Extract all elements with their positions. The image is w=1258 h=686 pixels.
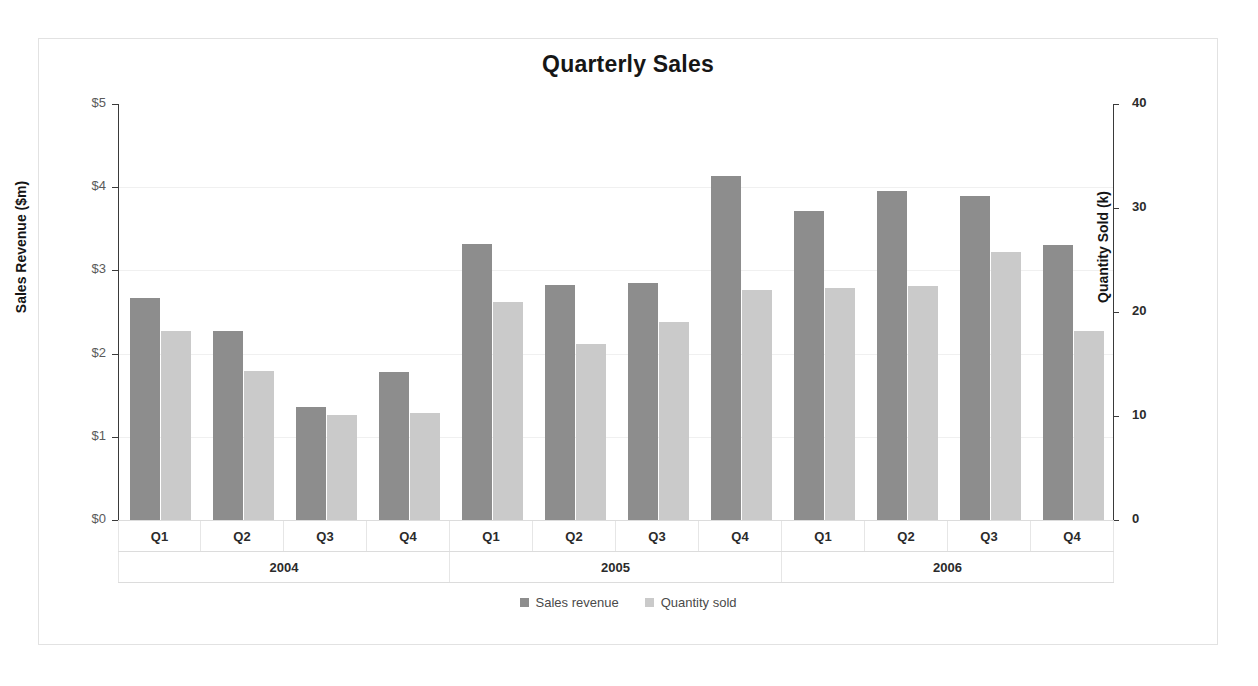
bar-quantity-sold: [576, 344, 606, 520]
quarter-label-q4-11: Q4: [1031, 521, 1114, 551]
category-axis: Q1Q2Q3Q4Q1Q2Q3Q4Q1Q2Q3Q4 200420052006: [118, 520, 1114, 584]
left-axis-title: Sales Revenue ($m): [13, 181, 29, 313]
bar-sales-revenue: [628, 283, 658, 520]
left-axis-tick-label: $0: [92, 511, 106, 526]
plot-area: $0$1$2$3$4$5 010203040: [118, 104, 1114, 520]
bar-sales-revenue: [462, 244, 492, 520]
right-axis-tick: [1113, 416, 1119, 417]
bar-sales-revenue: [379, 372, 409, 520]
quarter-label-q2-5: Q2: [533, 521, 616, 551]
legend-label: Sales revenue: [536, 595, 619, 610]
year-label-2004: 2004: [118, 552, 450, 582]
bar-sales-revenue: [545, 285, 575, 520]
chart-legend: Sales revenueQuantity sold: [39, 595, 1217, 610]
left-axis-tick-label: $1: [92, 428, 106, 443]
right-axis-tick-label: 40: [1132, 95, 1146, 110]
left-axis-tick-label: $2: [92, 345, 106, 360]
bar-quantity-sold: [991, 252, 1021, 520]
bar-sales-revenue: [130, 298, 160, 520]
quarter-label-q2-1: Q2: [201, 521, 284, 551]
left-axis-tick: [112, 437, 118, 438]
legend-swatch-quantity-icon: [645, 598, 654, 607]
left-axis-tick: [112, 354, 118, 355]
bar-sales-revenue: [296, 407, 326, 520]
right-axis-tick-label: 20: [1132, 303, 1146, 318]
year-label-2006: 2006: [782, 552, 1114, 582]
bar-quantity-sold: [1074, 331, 1104, 520]
quarter-label-q1-8: Q1: [782, 521, 865, 551]
legend-item-quantity[interactable]: Quantity sold: [645, 595, 737, 610]
legend-item-revenue[interactable]: Sales revenue: [520, 595, 619, 610]
legend-label: Quantity sold: [661, 595, 737, 610]
bar-quantity-sold: [493, 302, 523, 520]
chart-frame: Quarterly Sales $0$1$2$3$4$5 010203040 S…: [38, 38, 1218, 645]
bar-sales-revenue: [711, 176, 741, 520]
left-axis-tick-label: $5: [92, 95, 106, 110]
bar-quantity-sold: [410, 413, 440, 520]
left-axis-tick: [112, 270, 118, 271]
year-label-2005: 2005: [450, 552, 782, 582]
quarter-label-row: Q1Q2Q3Q4Q1Q2Q3Q4Q1Q2Q3Q4: [118, 520, 1114, 552]
bar-quantity-sold: [825, 288, 855, 520]
quarter-label-q3-10: Q3: [948, 521, 1031, 551]
bar-sales-revenue: [1043, 245, 1073, 520]
bar-sales-revenue: [794, 211, 824, 520]
legend-swatch-revenue-icon: [520, 598, 529, 607]
bar-sales-revenue: [877, 191, 907, 520]
bar-sales-revenue: [213, 331, 243, 520]
bar-quantity-sold: [327, 415, 357, 520]
quarter-label-q1-0: Q1: [118, 521, 201, 551]
bar-sales-revenue: [960, 196, 990, 520]
bar-quantity-sold: [908, 286, 938, 520]
left-axis-line: [118, 104, 119, 520]
left-axis-tick-label: $3: [92, 261, 106, 276]
right-axis-tick: [1113, 104, 1119, 105]
left-axis-tick-label: $4: [92, 178, 106, 193]
quarter-label-q3-2: Q3: [284, 521, 367, 551]
left-axis-tick: [112, 104, 118, 105]
left-axis-tick: [112, 187, 118, 188]
right-axis-tick: [1113, 312, 1119, 313]
bar-quantity-sold: [659, 322, 689, 520]
right-axis-tick-label: 0: [1132, 511, 1139, 526]
bar-quantity-sold: [244, 371, 274, 520]
quarter-label-q4-7: Q4: [699, 521, 782, 551]
right-axis-tick: [1113, 208, 1119, 209]
chart-title: Quarterly Sales: [39, 51, 1217, 78]
year-label-row: 200420052006: [118, 552, 1114, 583]
quarter-label-q4-3: Q4: [367, 521, 450, 551]
right-axis-tick-label: 10: [1132, 407, 1146, 422]
gridline: [118, 187, 1114, 188]
quarter-label-q3-6: Q3: [616, 521, 699, 551]
right-axis-tick-label: 30: [1132, 199, 1146, 214]
bar-quantity-sold: [742, 290, 772, 520]
bar-quantity-sold: [161, 331, 191, 520]
right-axis-title: Quantity Sold (k): [1095, 191, 1111, 303]
quarter-label-q2-9: Q2: [865, 521, 948, 551]
quarter-label-q1-4: Q1: [450, 521, 533, 551]
